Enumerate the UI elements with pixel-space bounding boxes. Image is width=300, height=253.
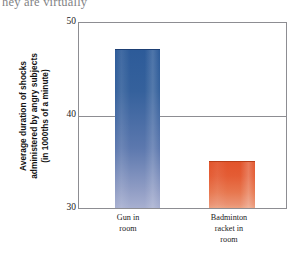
y-axis-label-text: Average duration of shocks administered … (18, 23, 51, 209)
gridline-40 (79, 116, 286, 117)
y-tick-label-50: 50 (50, 16, 76, 26)
bar-badminton-racket-in-room[interactable] (209, 161, 255, 208)
y-axis-label: Average duration of shocks administered … (14, 22, 54, 210)
bar-badminton-racket-in-room-fill (209, 161, 255, 208)
x-category-label-gun: Gun in room (92, 212, 164, 234)
x-category-label-badminton: Badminton racket in room (186, 212, 272, 245)
bar-gun-in-room[interactable] (115, 49, 160, 208)
y-tick-label-30: 30 (50, 202, 76, 212)
plot-area (78, 22, 287, 209)
bar-chart-figure: Average duration of shocks administered … (0, 0, 300, 253)
bar-gun-in-room-fill (115, 49, 160, 208)
y-tick-label-40: 40 (50, 109, 76, 119)
